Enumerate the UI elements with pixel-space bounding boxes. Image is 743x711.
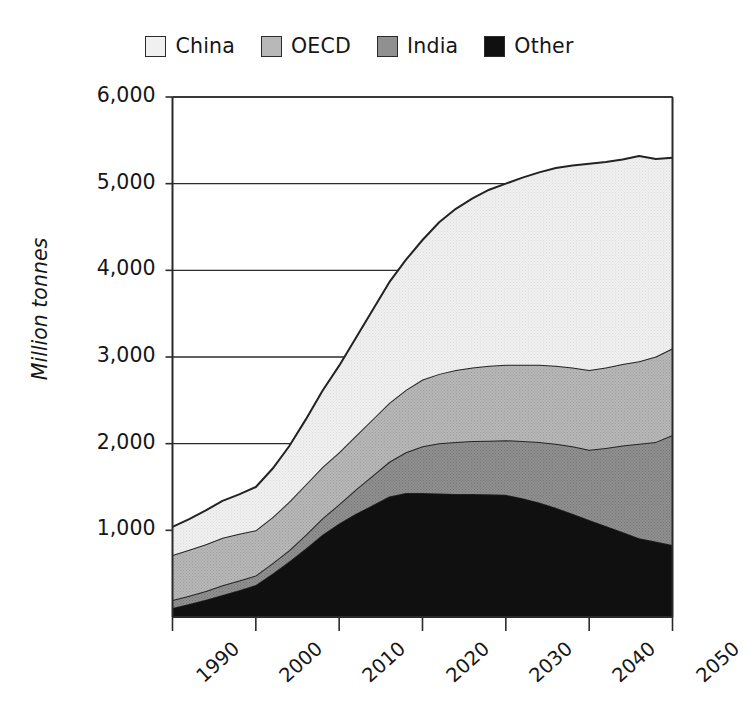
y-axis-tick-label: 5,000 (56, 170, 156, 194)
y-axis-tick-label: 1,000 (56, 516, 156, 540)
y-axis-tick-label: 3,000 (56, 343, 156, 367)
y-axis-tick-label: 6,000 (56, 83, 156, 107)
y-axis-tick-label: 4,000 (56, 256, 156, 280)
y-axis-tick-label: 2,000 (56, 430, 156, 454)
